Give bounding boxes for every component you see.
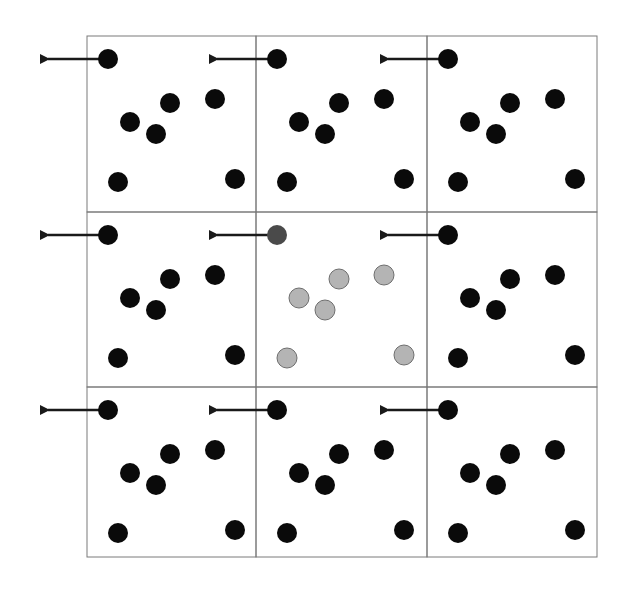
image-particle (315, 475, 335, 495)
image-particle (315, 124, 335, 144)
central-particle (277, 348, 297, 368)
image-particle (394, 520, 414, 540)
image-particle (277, 172, 297, 192)
image-particle (486, 300, 506, 320)
image-particle (108, 523, 128, 543)
image-particle (225, 520, 245, 540)
image-particle (108, 348, 128, 368)
image-particle (394, 169, 414, 189)
image-particle (565, 520, 585, 540)
periodic-boundary-diagram (0, 0, 628, 589)
image-particle (500, 444, 520, 464)
image-particle (374, 440, 394, 460)
image-particle (565, 169, 585, 189)
central-particle (315, 300, 335, 320)
image-particle (160, 269, 180, 289)
image-particle (289, 463, 309, 483)
image-particle (460, 288, 480, 308)
image-particle (146, 124, 166, 144)
image-particle (205, 265, 225, 285)
image-particle (460, 463, 480, 483)
image-particle (438, 225, 458, 245)
image-particle (460, 112, 480, 132)
image-particle (120, 112, 140, 132)
central-particle (329, 269, 349, 289)
image-particle (329, 444, 349, 464)
image-particle (146, 475, 166, 495)
image-particle (448, 172, 468, 192)
image-particle (448, 523, 468, 543)
image-particle (98, 225, 118, 245)
image-particle (160, 444, 180, 464)
image-particle (225, 169, 245, 189)
image-particle (438, 49, 458, 69)
image-particle (120, 288, 140, 308)
image-particle (267, 400, 287, 420)
image-particle (500, 269, 520, 289)
image-particle (545, 440, 565, 460)
image-particle (205, 440, 225, 460)
image-particle (146, 300, 166, 320)
image-particle (225, 345, 245, 365)
image-particle (120, 463, 140, 483)
particles (98, 49, 585, 543)
image-particle (500, 93, 520, 113)
image-particle (545, 265, 565, 285)
central-particle (289, 288, 309, 308)
central-particle (394, 345, 414, 365)
exiting-particle (267, 225, 287, 245)
image-particle (545, 89, 565, 109)
image-particle (108, 172, 128, 192)
image-particle (205, 89, 225, 109)
image-particle (565, 345, 585, 365)
central-particle (374, 265, 394, 285)
image-particle (329, 93, 349, 113)
image-particle (438, 400, 458, 420)
image-particle (486, 475, 506, 495)
image-particle (160, 93, 180, 113)
image-particle (98, 400, 118, 420)
image-particle (277, 523, 297, 543)
image-particle (98, 49, 118, 69)
image-particle (289, 112, 309, 132)
image-particle (374, 89, 394, 109)
image-particle (267, 49, 287, 69)
image-particle (486, 124, 506, 144)
image-particle (448, 348, 468, 368)
